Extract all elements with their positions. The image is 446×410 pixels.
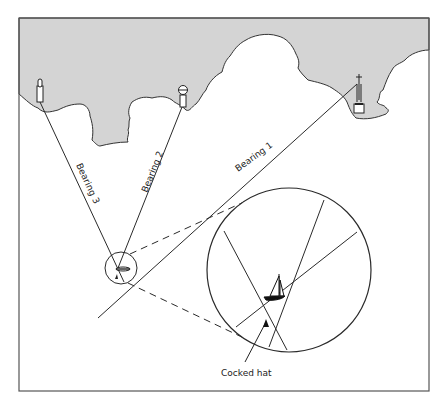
boat-small-icon — [116, 267, 130, 271]
landmark-1-beacon-icon — [37, 79, 43, 102]
cocked-hat-label: Cocked hat — [221, 368, 272, 378]
landmark-2-beacon-icon — [179, 86, 188, 108]
bearing-2-label: Bearing 2 — [140, 150, 166, 194]
arrow-small-icon — [115, 274, 118, 279]
coastline-land — [19, 18, 429, 146]
cocked-hat-diagram: Bearing 3 Bearing 2 Bearing 1 Cocked hat — [0, 0, 446, 410]
bearing-1-label: Bearing 1 — [233, 140, 274, 174]
fix-circle-magnified — [207, 188, 371, 352]
